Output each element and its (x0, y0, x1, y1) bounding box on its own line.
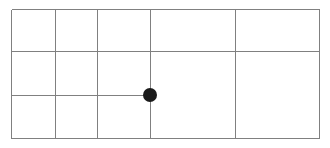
diagram-canvas (0, 0, 330, 148)
grid-diagram (0, 0, 330, 148)
node-marker[interactable] (143, 88, 157, 102)
